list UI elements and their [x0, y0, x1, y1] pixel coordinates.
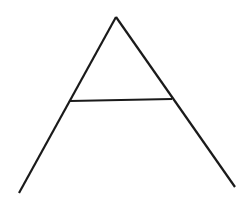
a-shape-svg [0, 0, 251, 199]
right-leg-line [116, 17, 235, 187]
left-leg-line [19, 17, 116, 193]
a-shape-diagram [0, 0, 251, 199]
crossbar-line [70, 99, 172, 101]
